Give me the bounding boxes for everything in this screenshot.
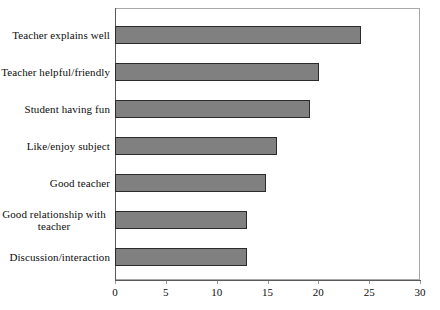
x-tick-label: 0: [95, 286, 135, 298]
x-tick-mark: [166, 281, 167, 284]
x-tick-mark: [369, 281, 370, 284]
x-tick-label: 10: [197, 286, 237, 298]
x-tick-mark: [318, 281, 319, 284]
x-tick-label: 25: [349, 286, 389, 298]
x-tick-mark: [115, 281, 116, 284]
x-tick-mark: [420, 281, 421, 284]
bar-chart: Teacher explains wellTeacher helpful/fri…: [0, 0, 440, 310]
x-tick-label: 5: [146, 286, 186, 298]
x-tick-label: 15: [248, 286, 288, 298]
x-tick-label: 30: [400, 286, 440, 298]
x-axis-ticks: 051015202530: [0, 0, 440, 310]
x-tick-mark: [217, 281, 218, 284]
x-tick-mark: [268, 281, 269, 284]
x-tick-label: 20: [298, 286, 338, 298]
